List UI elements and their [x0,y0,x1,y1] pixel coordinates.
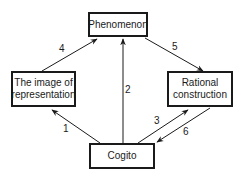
edge-3-label: 3 [154,116,160,126]
edge-1-label: 1 [63,124,69,134]
edge-5-label: 5 [172,42,178,52]
node-rational-label: Rational construction [171,77,229,101]
edge-2-label: 2 [125,85,131,95]
edge-6-label: 6 [183,127,189,137]
node-phenomenon: Phenomenon [88,12,148,37]
edge-4-arrow [42,39,97,71]
edge-1-arrow [52,110,100,143]
edge-4-label: 4 [59,44,65,54]
node-cogito: Cogito [89,143,155,169]
node-rational-construction: Rational construction [167,71,233,107]
node-cogito-label: Cogito [108,150,137,162]
node-phenomenon-label: Phenomenon [88,19,148,31]
node-image-of-representation: The image of representation [11,71,76,107]
node-image-label: The image of representation [12,77,76,101]
